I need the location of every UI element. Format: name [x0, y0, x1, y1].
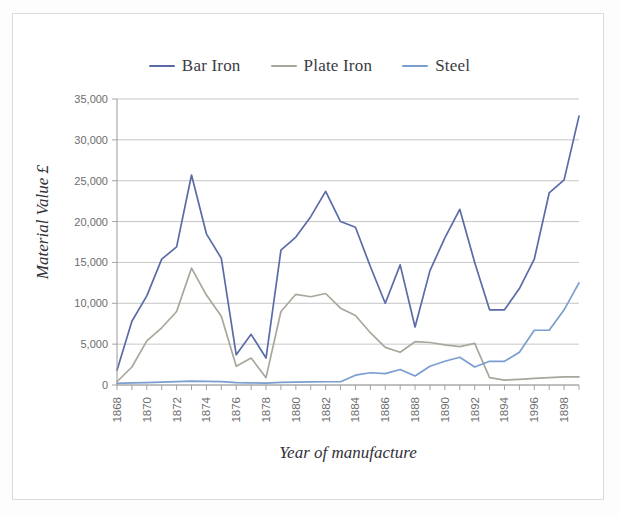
svg-text:25,000: 25,000 — [74, 175, 108, 187]
svg-text:1894: 1894 — [498, 396, 510, 422]
svg-text:1876: 1876 — [230, 397, 242, 423]
svg-text:1870: 1870 — [141, 397, 153, 423]
svg-text:1890: 1890 — [439, 397, 451, 423]
svg-text:1884: 1884 — [349, 396, 361, 422]
data-series — [117, 116, 579, 383]
svg-text:20,000: 20,000 — [74, 216, 108, 228]
svg-text:1868: 1868 — [111, 397, 123, 423]
svg-text:1892: 1892 — [469, 397, 481, 423]
chart-canvas: 05,00010,00015,00020,00025,00030,00035,0… — [0, 0, 619, 516]
svg-text:30,000: 30,000 — [74, 134, 108, 146]
svg-text:1996: 1996 — [528, 397, 540, 423]
svg-text:0: 0 — [102, 379, 108, 391]
svg-text:10,000: 10,000 — [74, 297, 108, 309]
x-axis-ticks: 1868187018721874187618781880188218841886… — [111, 385, 579, 423]
chart-figure: Bar Iron Plate Iron Steel 05,00010,00015… — [0, 0, 619, 516]
svg-text:35,000: 35,000 — [74, 93, 108, 105]
svg-text:1874: 1874 — [200, 396, 212, 422]
y-axis-ticks: 05,00010,00015,00020,00025,00030,00035,0… — [74, 93, 117, 391]
svg-text:1888: 1888 — [409, 397, 421, 423]
svg-text:5,000: 5,000 — [80, 338, 108, 350]
axis-lines — [117, 99, 579, 385]
svg-text:1882: 1882 — [320, 397, 332, 423]
svg-text:1880: 1880 — [290, 397, 302, 423]
x-axis-title: Year of manufacture — [117, 443, 579, 463]
svg-text:1886: 1886 — [379, 397, 391, 423]
svg-text:1878: 1878 — [260, 397, 272, 423]
plot-area: 05,00010,00015,00020,00025,00030,00035,0… — [0, 0, 619, 516]
svg-text:15,000: 15,000 — [74, 256, 108, 268]
y-axis-title: Material Value £ — [33, 132, 53, 312]
svg-text:1898: 1898 — [558, 397, 570, 423]
gridlines — [117, 99, 579, 385]
svg-text:1872: 1872 — [171, 397, 183, 423]
